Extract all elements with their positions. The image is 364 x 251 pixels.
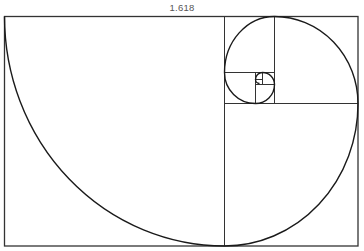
golden-spiral-diagram	[0, 0, 364, 251]
outer-golden-rectangle	[5, 17, 359, 247]
golden-spiral	[5, 17, 359, 247]
square-dividers	[5, 17, 359, 247]
